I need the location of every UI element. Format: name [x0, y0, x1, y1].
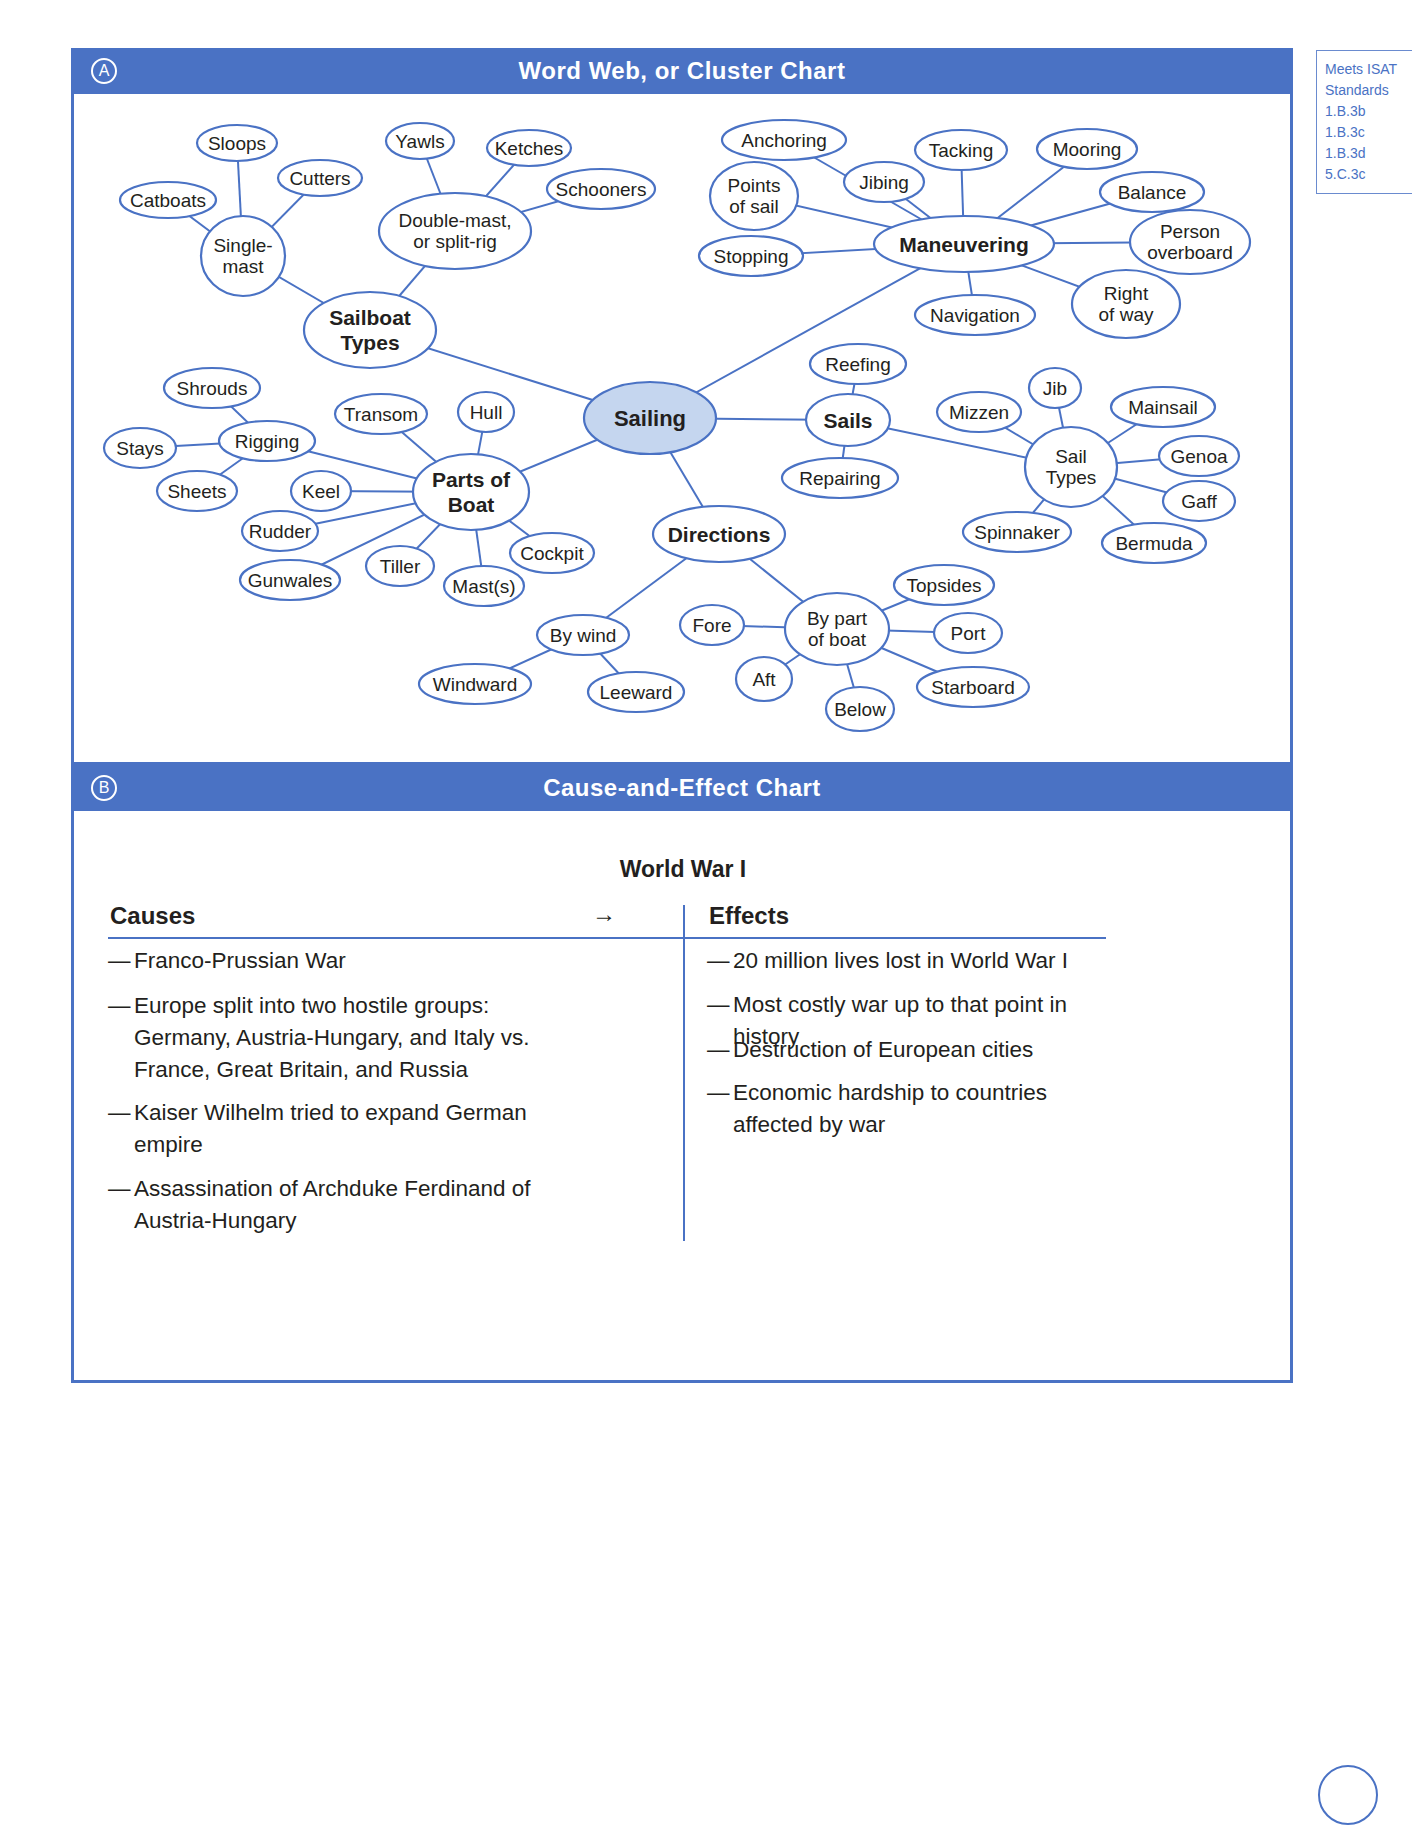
node-label: Bermuda	[1115, 533, 1193, 554]
node-label: Aft	[752, 669, 776, 690]
dash: —	[707, 1034, 730, 1066]
node-label: Repairing	[799, 468, 880, 489]
cause-item: — Europe split into two hostile groups: …	[108, 990, 568, 1086]
node-label: Balance	[1118, 182, 1187, 203]
node-parts-of-boat: Parts ofBoat	[413, 454, 529, 530]
node-jib: Jib	[1029, 368, 1081, 408]
node-label: Topsides	[907, 575, 982, 596]
node-label: By part	[807, 608, 868, 629]
node-label: Rigging	[235, 431, 299, 452]
node-label: Rudder	[249, 521, 312, 542]
node-label: Schooners	[556, 179, 647, 200]
node-maneuvering: Maneuvering	[874, 216, 1054, 272]
node-label: of way	[1099, 304, 1154, 325]
node-label: Tacking	[929, 140, 993, 161]
node-label: Jibing	[859, 172, 909, 193]
causes-header: Causes	[110, 902, 195, 930]
node-label: Maneuvering	[899, 233, 1029, 256]
node-fore: Fore	[680, 605, 744, 645]
node-label: or split-rig	[413, 231, 496, 252]
node-label: Windward	[433, 674, 517, 695]
node-label: Yawls	[395, 131, 444, 152]
node-rigging: Rigging	[219, 421, 315, 461]
node-mizzen: Mizzen	[937, 392, 1021, 432]
standards-code: 1.B.3d	[1325, 143, 1412, 164]
word-web-diagram: SailingSailboatTypesSingle-mastSloopsCut…	[0, 0, 1412, 780]
node-label: Mizzen	[949, 402, 1009, 423]
node-label: Shrouds	[177, 378, 248, 399]
node-label: Mooring	[1053, 139, 1122, 160]
node-schooners: Schooners	[547, 169, 655, 209]
node-sail-types: SailTypes	[1025, 427, 1117, 507]
node-label: Genoa	[1170, 446, 1227, 467]
cause-item: — Kaiser Wilhelm tried to expand German …	[108, 1097, 568, 1161]
node-shrouds: Shrouds	[164, 368, 260, 408]
node-label: Types	[1046, 467, 1097, 488]
node-tiller: Tiller	[366, 546, 434, 586]
node-label: overboard	[1147, 242, 1233, 263]
node-label: Gaff	[1181, 491, 1217, 512]
node-label: Sloops	[208, 133, 266, 154]
cause-text: Europe split into two hostile groups: Ge…	[108, 990, 568, 1086]
node-label: Types	[340, 331, 399, 354]
node-label: Catboats	[130, 190, 206, 211]
dash: —	[108, 990, 131, 1022]
node-label: Sail	[1055, 446, 1087, 467]
node-mooring: Mooring	[1037, 129, 1137, 169]
node-catboats: Catboats	[120, 182, 216, 218]
node-label: Mast(s)	[452, 576, 515, 597]
node-directions: Directions	[653, 506, 785, 562]
cause-text: Franco-Prussian War	[108, 945, 568, 977]
node-label: Double-mast,	[399, 210, 512, 231]
node-stays: Stays	[104, 428, 176, 468]
dash: —	[707, 989, 730, 1021]
node-label: Stays	[116, 438, 164, 459]
node-sailboat-types: SailboatTypes	[304, 292, 436, 368]
node-hull: Hull	[458, 392, 514, 432]
node-gunwales: Gunwales	[240, 560, 340, 600]
effect-item: — 20 million lives lost in World War I	[707, 945, 1107, 977]
node-right-of-way: Rightof way	[1072, 270, 1180, 338]
node-leeward: Leeward	[588, 672, 684, 712]
node-by-part-of-boat: By partof boat	[785, 593, 889, 665]
node-label: Parts of	[432, 468, 511, 491]
node-label: By wind	[550, 625, 617, 646]
node-label: Fore	[692, 615, 731, 636]
node-cockpit: Cockpit	[510, 533, 594, 573]
node-keel: Keel	[291, 471, 351, 511]
effect-text: Destruction of European cities	[707, 1034, 1107, 1066]
node-label: Person	[1160, 221, 1220, 242]
node-port: Port	[934, 613, 1002, 653]
node-label: Below	[834, 699, 886, 720]
node-label: Directions	[668, 523, 771, 546]
node-sheets: Sheets	[157, 471, 237, 511]
standards-code: 5.C.3c	[1325, 164, 1412, 185]
node-label: Leeward	[600, 682, 673, 703]
dash: —	[108, 945, 131, 977]
node-stopping: Stopping	[699, 236, 803, 276]
node-label: Reefing	[825, 354, 891, 375]
node-spinnaker: Spinnaker	[963, 512, 1071, 552]
node-bermuda: Bermuda	[1102, 523, 1206, 563]
node-label: Boat	[448, 493, 495, 516]
node-ketches: Ketches	[487, 130, 571, 166]
node-aft: Aft	[736, 657, 792, 701]
node-mainsail: Mainsail	[1111, 387, 1215, 427]
column-divider	[683, 905, 685, 1241]
standards-box: Meets ISAT Standards 1.B.3b 1.B.3c 1.B.3…	[1316, 50, 1412, 194]
node-label: Cutters	[289, 168, 350, 189]
node-label: Tiller	[380, 556, 421, 577]
node-label: Sailboat	[329, 306, 411, 329]
node-label: Anchoring	[741, 130, 827, 151]
node-single-mast: Single-mast	[201, 216, 285, 296]
node-sails: Sails	[806, 394, 890, 446]
header-divider	[108, 937, 1106, 939]
node-label: of boat	[808, 629, 867, 650]
node-genoa: Genoa	[1159, 436, 1239, 476]
node-windward: Windward	[419, 664, 531, 704]
node-repairing: Repairing	[782, 458, 898, 498]
effect-text: Economic hardship to countries affected …	[707, 1077, 1107, 1141]
node-label: Gunwales	[248, 570, 333, 591]
node-label: Transom	[344, 404, 418, 425]
node-double-mast: Double-mast,or split-rig	[379, 193, 531, 269]
